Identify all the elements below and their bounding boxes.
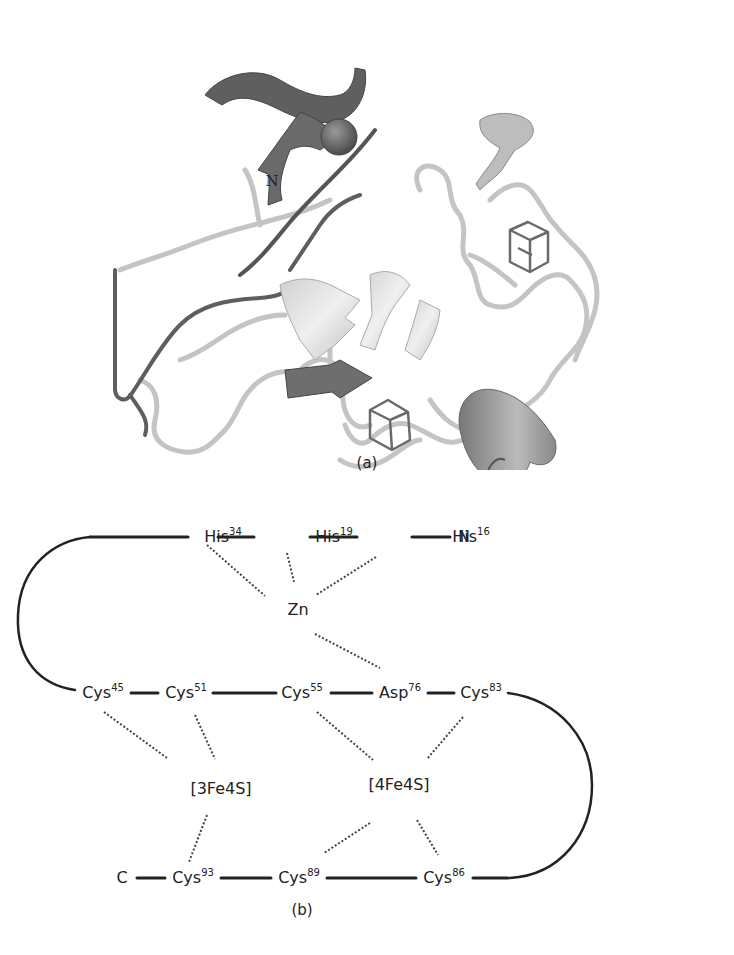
residue-cys89: Cys89 bbox=[278, 870, 320, 886]
residue-cys51: Cys51 bbox=[165, 685, 207, 701]
backbone-lines bbox=[18, 537, 592, 878]
residue-his19: His19 bbox=[315, 529, 353, 545]
residue-cys45: Cys45 bbox=[82, 685, 124, 701]
c-terminus: C bbox=[116, 870, 127, 886]
cluster-4fe4s: [4Fe4S] bbox=[368, 777, 429, 793]
n-terminus-node: N bbox=[458, 529, 470, 545]
residue-cys86: Cys86 bbox=[423, 870, 465, 886]
residue-cys83: Cys83 bbox=[460, 685, 502, 701]
coordination-schematic-lines bbox=[0, 0, 734, 955]
panel-b-caption: (b) bbox=[291, 901, 312, 919]
residue-asp76: Asp76 bbox=[379, 685, 421, 701]
zinc-ion: Zn bbox=[287, 602, 308, 618]
coordination-bonds-dotted bbox=[104, 545, 463, 862]
residue-cys93: Cys93 bbox=[172, 870, 214, 886]
residue-his34: His34 bbox=[204, 529, 242, 545]
cluster-3fe4s: [3Fe4S] bbox=[190, 781, 251, 797]
residue-cys55: Cys55 bbox=[281, 685, 323, 701]
